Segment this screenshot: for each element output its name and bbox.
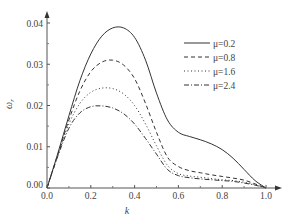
y-tick-label: 0.02: [26, 101, 43, 111]
chart: 0.00.20.40.60.81.0 0.000.010.020.030.04 …: [0, 0, 289, 222]
x-tick-label: 0.0: [41, 191, 53, 201]
x-tick-label: 0.8: [216, 191, 228, 201]
legend-label: μ=2.4: [213, 81, 236, 91]
x-axis-label: k: [125, 205, 130, 216]
y-tick-label: 0.04: [26, 19, 43, 29]
series-line: [47, 60, 266, 188]
x-tick-label: 0.4: [129, 191, 141, 201]
legend-label: μ=1.6: [213, 67, 236, 77]
legend: μ=0.2 μ=0.8 μ=1.6 μ=2.4: [184, 39, 236, 91]
legend-label: μ=0.8: [213, 53, 236, 63]
y-axis-arrow-icon: [45, 11, 50, 18]
legend-item: μ=1.6: [184, 67, 236, 77]
legend-item: μ=2.4: [184, 81, 236, 91]
legend-item: μ=0.2: [184, 39, 236, 49]
plot-lines: [47, 27, 266, 188]
series-line: [47, 27, 266, 188]
legend-label: μ=0.2: [213, 39, 236, 49]
series-line: [47, 106, 266, 188]
x-ticks: 0.00.20.40.60.81.0: [41, 185, 272, 201]
x-tick-label: 1.0: [260, 191, 272, 201]
y-tick-label: 0.00: [26, 180, 43, 190]
x-axis-arrow-icon: [275, 186, 282, 191]
x-tick-label: 0.2: [85, 191, 97, 201]
x-tick-label: 0.6: [172, 191, 184, 201]
legend-item: μ=0.8: [184, 53, 236, 63]
series-line: [47, 88, 266, 188]
y-tick-label: 0.01: [26, 142, 43, 152]
axes: 0.00.20.40.60.81.0 0.000.010.020.030.04 …: [3, 11, 282, 216]
y-axis-label: ωr: [3, 99, 16, 109]
y-ticks: 0.000.010.020.030.04: [26, 19, 50, 191]
y-tick-label: 0.03: [26, 60, 43, 70]
